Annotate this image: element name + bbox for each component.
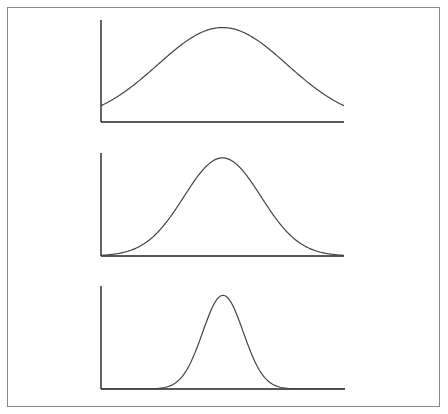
bell-curve-1 [101,28,344,106]
bell-curve-2 [101,158,344,255]
chart-panel-1 [101,20,344,122]
bell-curves-figure [0,0,448,414]
bell-curve-3 [101,295,345,389]
chart-panel-3 [101,286,345,389]
chart-panel-2 [101,153,344,256]
